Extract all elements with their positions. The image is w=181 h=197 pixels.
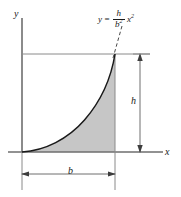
equation-denominator: b2 bbox=[113, 20, 125, 30]
shaded-parabolic-region bbox=[22, 54, 115, 152]
figure-canvas bbox=[0, 0, 181, 197]
width-dimension-label: b bbox=[68, 166, 73, 176]
equation-trailing-exponent: 2 bbox=[131, 13, 134, 19]
equation-trailing-term: x2 bbox=[127, 15, 134, 24]
equation-leader-line bbox=[113, 26, 122, 58]
equation-equals-sign: = bbox=[104, 15, 111, 24]
height-dimension-label: h bbox=[131, 96, 136, 106]
equation-denominator-exponent: 2 bbox=[120, 18, 123, 24]
y-axis-label: y bbox=[14, 9, 18, 19]
equation-callout: y = h b2 x2 bbox=[98, 9, 134, 29]
x-axis-label: x bbox=[165, 147, 169, 157]
equation-fraction: h b2 bbox=[113, 9, 125, 29]
equation-lhs: y bbox=[98, 15, 102, 24]
parabolic-area-figure: y x h b y = h b2 x2 bbox=[0, 0, 181, 197]
